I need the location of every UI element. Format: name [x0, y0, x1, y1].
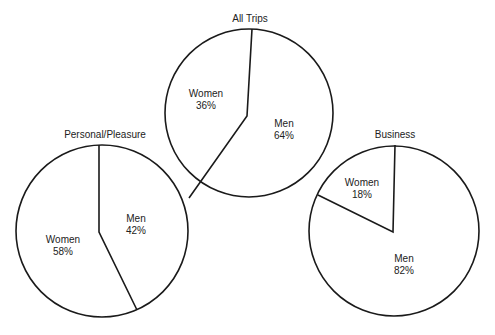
women-label-business: Women 18%: [345, 177, 379, 201]
men-text: Men: [394, 253, 414, 265]
women-pct: 18%: [345, 189, 379, 201]
men-pct: 42%: [126, 225, 146, 237]
women-label-personal: Women 58%: [46, 234, 80, 258]
men-label-personal: Men 42%: [126, 213, 146, 237]
pie-title-personal-pleasure: Personal/Pleasure: [64, 129, 146, 140]
women-pct: 58%: [46, 246, 80, 258]
women-label-all-trips: Women 36%: [189, 88, 223, 112]
women-text: Women: [46, 234, 80, 246]
pie-title-all-trips: All Trips: [232, 13, 268, 24]
pie-business: [309, 145, 479, 316]
women-text: Women: [189, 88, 223, 100]
men-label-business: Men 82%: [394, 253, 414, 277]
men-pct: 82%: [394, 265, 414, 277]
men-text: Men: [274, 118, 294, 130]
pie-all-trips: [165, 29, 333, 198]
men-text: Men: [126, 213, 146, 225]
pie-charts-graphic: [0, 0, 495, 335]
women-pct: 36%: [189, 100, 223, 112]
women-text: Women: [345, 177, 379, 189]
pie-title-business: Business: [375, 129, 416, 140]
men-pct: 64%: [274, 130, 294, 142]
pie-personal-pleasure: [16, 145, 188, 317]
men-label-all-trips: Men 64%: [274, 118, 294, 142]
